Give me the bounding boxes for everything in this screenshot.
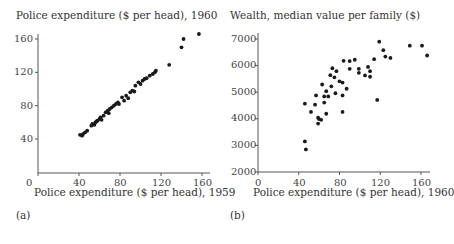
data-point: [328, 73, 332, 77]
data-point: [368, 75, 372, 79]
data-point: [317, 117, 321, 121]
data-point: [95, 120, 99, 124]
y-tick-b-6000: 6000: [231, 59, 256, 70]
data-point: [353, 58, 357, 62]
y-tick-b-4000: 4000: [231, 112, 256, 123]
data-point: [375, 98, 379, 102]
data-point: [333, 75, 337, 79]
data-point: [357, 71, 361, 75]
data-point: [180, 45, 184, 49]
data-point: [324, 89, 328, 93]
data-point: [320, 83, 324, 87]
data-point: [117, 102, 121, 106]
data-point: [420, 44, 424, 48]
y-tick-a-80: 80: [20, 100, 33, 111]
data-point: [345, 87, 349, 91]
panel-label-a: (a): [16, 209, 30, 221]
y-tick-a-120: 120: [14, 66, 33, 77]
data-point: [324, 112, 328, 116]
data-point: [313, 103, 317, 107]
data-point: [368, 69, 372, 73]
data-point: [335, 69, 339, 73]
data-point: [303, 140, 307, 144]
data-point: [342, 59, 346, 63]
data-point: [383, 55, 387, 59]
data-point: [341, 110, 345, 114]
data-point: [326, 95, 330, 99]
data-point: [154, 69, 158, 73]
y-tick-a-40: 40: [20, 133, 33, 144]
data-point: [122, 99, 126, 103]
chart-a-plot: [0, 0, 226, 244]
data-point: [334, 91, 338, 95]
y-tick-b-2000: 2000: [231, 166, 256, 177]
data-point: [366, 65, 370, 69]
data-point: [85, 129, 89, 133]
data-point: [408, 44, 412, 48]
data-point: [182, 37, 186, 41]
data-point: [357, 67, 361, 71]
data-point: [316, 122, 320, 126]
data-point: [322, 101, 326, 105]
data-point: [389, 56, 393, 60]
data-point: [139, 82, 143, 86]
data-point: [304, 147, 308, 151]
chart-a-xlabel: Police expenditure ($ per head), 1959: [34, 186, 235, 198]
x-tick-a-0: 0: [26, 177, 32, 188]
panel-a: Police expenditure ($ per head), 1960 16…: [0, 0, 226, 244]
data-point: [197, 32, 201, 36]
y-tick-b-5000: 5000: [231, 86, 256, 97]
y-tick-a-160: 160: [14, 33, 33, 44]
y-tick-b-3000: 3000: [231, 139, 256, 150]
data-point: [363, 74, 367, 78]
chart-b-xlabel: Police expenditure ($ per head), 1960: [253, 186, 454, 198]
panel-b: Wealth, median value per family ($) 7000…: [226, 0, 453, 244]
data-point: [348, 59, 352, 63]
data-point: [133, 84, 137, 88]
panel-label-b: (b): [230, 209, 245, 221]
data-point: [102, 114, 106, 118]
data-point: [107, 111, 111, 115]
data-point: [126, 96, 130, 100]
data-point: [80, 134, 84, 138]
data-point: [132, 90, 136, 94]
data-point: [303, 102, 307, 106]
data-point: [381, 48, 385, 52]
data-point: [322, 95, 326, 99]
data-point: [377, 40, 381, 44]
y-tick-b-7000: 7000: [231, 33, 256, 44]
data-point: [314, 93, 318, 97]
data-point: [425, 54, 429, 58]
data-point: [309, 110, 313, 114]
data-point: [167, 63, 171, 67]
data-point: [341, 93, 345, 97]
data-point: [348, 67, 352, 71]
data-point: [120, 95, 124, 99]
data-point: [330, 66, 334, 70]
data-point: [341, 81, 345, 85]
data-point: [145, 76, 149, 80]
chart-b-plot: [226, 0, 453, 244]
data-point: [372, 57, 376, 61]
data-point: [329, 84, 333, 88]
